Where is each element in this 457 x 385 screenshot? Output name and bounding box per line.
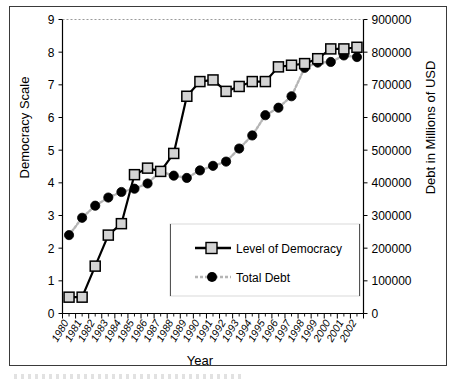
y-left-tick-label: 6 [48, 111, 55, 125]
data-point-marker [273, 62, 283, 72]
data-point-marker [143, 179, 152, 188]
y-left-tick-label: 8 [48, 46, 55, 60]
data-point-marker [274, 103, 283, 112]
y-axis-right-title: Debt in Millions of USD [423, 28, 438, 228]
data-point-marker [195, 77, 205, 87]
y-right-tick-label: 400000 [372, 176, 412, 190]
data-point-marker [103, 230, 113, 240]
data-point-marker [169, 148, 179, 158]
data-point-marker [261, 111, 270, 120]
data-point-marker [116, 219, 126, 229]
y-right-tick-label: 600000 [372, 111, 412, 125]
data-point-marker [221, 86, 231, 96]
data-point-marker [260, 77, 270, 87]
y-right-tick-label: 300000 [372, 209, 412, 223]
y-left-tick-label: 1 [48, 274, 55, 288]
series-level-of-democracy [64, 42, 362, 302]
y-left-tick-label: 9 [48, 13, 55, 27]
data-point-marker [300, 59, 310, 69]
data-point-marker [129, 170, 139, 180]
chart-canvas: 0123456789 01000002000003000004000005000… [0, 0, 457, 385]
legend-label-1: Total Debt [236, 271, 291, 285]
y-left-ticks: 0123456789 [48, 13, 63, 321]
chart-legend: Level of Democracy Total Debt [170, 224, 360, 296]
data-point-marker [208, 161, 217, 170]
data-point-marker [326, 57, 335, 66]
y-left-tick-label: 2 [48, 242, 55, 256]
y-right-tick-label: 100000 [372, 274, 412, 288]
data-point-marker [221, 157, 230, 166]
data-point-marker [287, 60, 297, 70]
data-point-marker [313, 54, 323, 64]
legend-item-total-debt: Total Debt [195, 271, 291, 285]
y-left-tick-label: 0 [48, 307, 55, 321]
data-point-marker [352, 52, 361, 61]
scan-artifact [14, 374, 244, 379]
legend-item-level-of-democracy: Level of Democracy [195, 242, 342, 256]
data-point-marker [248, 131, 257, 140]
data-point-marker [143, 163, 153, 173]
y-right-tick-label: 500000 [372, 144, 412, 158]
data-point-marker [64, 292, 74, 302]
data-point-marker [234, 81, 244, 91]
data-point-marker [208, 75, 218, 85]
data-point-marker [195, 166, 204, 175]
y-right-tick-label: 700000 [372, 78, 412, 92]
y-right-tick-label: 200000 [372, 242, 412, 256]
y-axis-left-title: Democracy Scale [17, 28, 32, 228]
data-point-marker [156, 166, 166, 176]
data-point-marker [352, 42, 362, 52]
data-point-marker [117, 187, 126, 196]
data-point-marker [64, 231, 73, 240]
y-left-tick-label: 3 [48, 209, 55, 223]
data-point-marker [90, 261, 100, 271]
data-point-marker [247, 77, 257, 87]
data-point-marker [182, 91, 192, 101]
data-point-marker [77, 292, 87, 302]
data-point-marker [235, 144, 244, 153]
y-left-tick-label: 5 [48, 144, 55, 158]
data-point-marker [182, 173, 191, 182]
y-right-tick-label: 0 [372, 307, 379, 321]
figure-container: 0123456789 01000002000003000004000005000… [0, 0, 457, 385]
y-right-tick-label: 800000 [372, 46, 412, 60]
data-point-marker [104, 193, 113, 202]
x-axis-ticks: 1980198119821983198419851986198719881989… [49, 314, 364, 345]
data-point-marker [78, 213, 87, 222]
y-left-tick-label: 4 [48, 176, 55, 190]
legend-label-0: Level of Democracy [236, 242, 342, 256]
x-axis-title: Year [0, 353, 400, 368]
y-right-ticks: 0100000200000300000400000500000600000700… [364, 13, 412, 321]
y-left-tick-label: 7 [48, 78, 55, 92]
data-point-marker [169, 171, 178, 180]
data-point-marker [326, 44, 336, 54]
y-right-tick-label: 900000 [372, 13, 412, 27]
data-point-marker [339, 44, 349, 54]
data-point-marker [91, 201, 100, 210]
data-point-marker [287, 92, 296, 101]
